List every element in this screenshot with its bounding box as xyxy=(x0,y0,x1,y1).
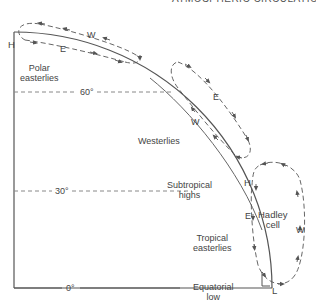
subtropical-high-pressure: H xyxy=(244,178,251,188)
hadley-cell-label: Hadley cell xyxy=(258,210,288,230)
polar-easterlies-label: Polar easterlies xyxy=(20,63,59,83)
equatorial-low-pressure: L xyxy=(272,286,277,296)
latitude-0-label: 0° xyxy=(66,283,75,293)
westerlies-label: Westerlies xyxy=(138,136,180,146)
latitude-60-label: 60° xyxy=(80,87,94,97)
ferrel-cell xyxy=(171,62,250,158)
polar-cell-upper-wind: W xyxy=(87,30,96,40)
circulation-diagram xyxy=(0,0,316,308)
ferrel-cell-surface-wind: W xyxy=(191,117,200,127)
hadley-cell-surface-wind: E xyxy=(245,211,251,221)
polar-cell xyxy=(19,23,139,63)
hadley-cell-upper-wind: W xyxy=(296,225,305,235)
tropical-easterlies-label: Tropical easterlies xyxy=(193,233,232,253)
ferrel-cell-arrows xyxy=(185,64,248,158)
ferrel-cell-upper-wind: E xyxy=(213,92,219,102)
subtropical-highs-label: Subtropical highs xyxy=(167,180,212,200)
latitude-30-label: 30° xyxy=(55,186,69,196)
polar-cell-surface-wind: E xyxy=(60,44,66,54)
pole-high-pressure: H xyxy=(8,40,15,50)
equatorial-low-label: Equatorial low xyxy=(193,282,234,302)
